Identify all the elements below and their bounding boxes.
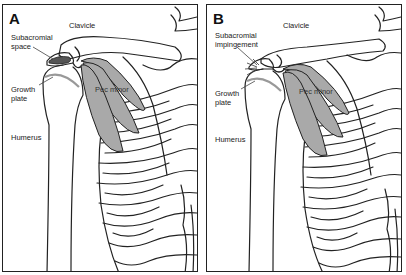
subacromial-label-line1: Subacromial bbox=[215, 31, 257, 40]
panel-letter: B bbox=[213, 10, 224, 27]
humerus-label: Humerus bbox=[215, 135, 245, 144]
clavicle-label: Clavicle bbox=[283, 21, 309, 30]
subacromial-label-line1: Subacromial bbox=[11, 33, 53, 42]
humerus-label: Humerus bbox=[11, 133, 41, 142]
subacromial-space bbox=[49, 57, 71, 65]
pec-minor-label: Pec minor bbox=[95, 85, 129, 94]
growth-plate-label-line1: Growth bbox=[11, 85, 35, 94]
growth-plate bbox=[45, 75, 79, 87]
panel-b: B Clavicle Subacromial impingement Growt… bbox=[206, 4, 402, 272]
figure: A Clavicle Subacromial space Growth plat… bbox=[0, 0, 406, 275]
growth-plate-label-line2: plate bbox=[11, 94, 27, 103]
growth-plate-label-line2: plate bbox=[215, 98, 231, 107]
growth-plate-label-line1: Growth bbox=[215, 89, 239, 98]
pec-minor-muscle bbox=[283, 64, 349, 155]
panel-a: A Clavicle Subacromial space Growth plat… bbox=[2, 4, 198, 272]
panel-letter: A bbox=[9, 10, 20, 27]
pec-minor-label: Pec minor bbox=[299, 87, 333, 96]
subacromial-label-line2: space bbox=[11, 42, 31, 51]
growth-plate bbox=[247, 79, 281, 91]
clavicle-label: Clavicle bbox=[69, 21, 95, 30]
subacromial-label-line2: impingement bbox=[215, 40, 258, 49]
pec-minor-muscle bbox=[81, 58, 145, 152]
